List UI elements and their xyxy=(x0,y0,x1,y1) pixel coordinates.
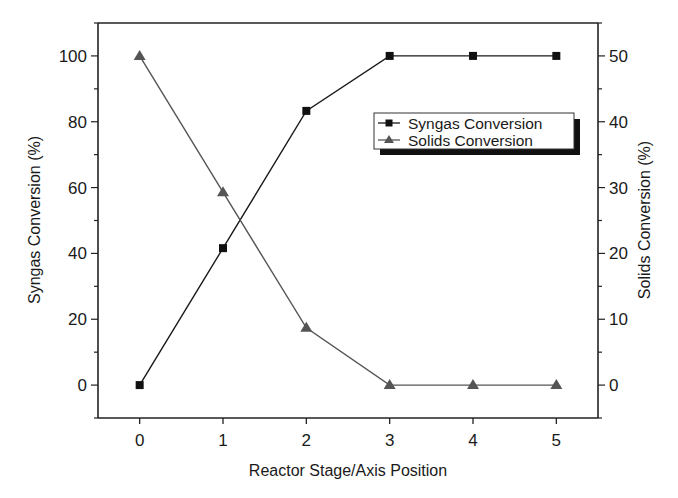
x-tick-label: 0 xyxy=(135,431,144,450)
y-left-tick-label: 40 xyxy=(68,244,87,263)
x-tick-label: 5 xyxy=(552,431,561,450)
triangle-marker-icon xyxy=(217,186,229,196)
triangle-marker-icon xyxy=(550,379,562,389)
square-marker-icon xyxy=(136,381,144,389)
legend-label-solids: Solids Conversion xyxy=(408,132,533,149)
y-left-tick-label: 80 xyxy=(68,113,87,132)
series-layer xyxy=(134,50,563,389)
series-solids-conversion xyxy=(134,50,563,389)
square-marker-icon xyxy=(302,107,310,115)
triangle-marker-icon xyxy=(300,322,312,332)
x-tick-label: 1 xyxy=(218,431,227,450)
legend: Syngas Conversion Solids Conversion xyxy=(374,113,580,155)
legend-label-syngas: Syngas Conversion xyxy=(408,115,542,132)
y-left-tick-label: 60 xyxy=(68,179,87,198)
plot-frame xyxy=(98,23,598,418)
y-left-axis-title: Syngas Conversion (%) xyxy=(26,136,43,304)
chart-canvas: 01234502040608010001020304050 Reactor St… xyxy=(0,0,678,498)
y-left-tick-label: 20 xyxy=(68,310,87,329)
y-right-tick-label: 50 xyxy=(609,47,628,66)
square-marker-icon xyxy=(552,52,560,60)
y-right-tick-label: 40 xyxy=(609,113,628,132)
x-tick-label: 3 xyxy=(385,431,394,450)
triangle-marker-icon xyxy=(467,379,479,389)
y-left-tick-label: 100 xyxy=(59,47,87,66)
series-line xyxy=(140,56,557,385)
square-marker-icon xyxy=(386,52,394,60)
x-tick-label: 2 xyxy=(302,431,311,450)
square-marker-icon xyxy=(219,244,227,252)
y-right-tick-label: 10 xyxy=(609,310,628,329)
triangle-marker-icon xyxy=(134,50,146,60)
y-right-tick-label: 30 xyxy=(609,179,628,198)
y-right-tick-label: 20 xyxy=(609,244,628,263)
series-line xyxy=(140,56,557,385)
y-left-tick-label: 0 xyxy=(78,376,87,395)
x-tick-label: 4 xyxy=(468,431,477,450)
y-right-tick-label: 0 xyxy=(609,376,618,395)
series-syngas-conversion xyxy=(136,52,561,389)
x-axis-title: Reactor Stage/Axis Position xyxy=(249,462,447,479)
y-right-axis-title: Solids Conversion (%) xyxy=(636,141,653,299)
triangle-marker-icon xyxy=(384,379,396,389)
square-marker-icon xyxy=(469,52,477,60)
square-marker-icon xyxy=(386,120,393,127)
